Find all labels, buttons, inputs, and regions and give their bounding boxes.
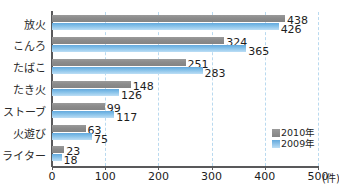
category-label: 放火 (24, 16, 46, 32)
x-axis-unit-label: (件) (322, 170, 339, 185)
chart-row: たばこ251283 (52, 57, 318, 78)
x-axis-tick-label: 400 (254, 170, 275, 183)
gridline (318, 12, 319, 166)
bar-2010年-こんろ[interactable]: 324 (52, 37, 224, 44)
bar-2009年-ストーブ[interactable]: 117 (52, 111, 114, 118)
chart-row: たき火148126 (52, 79, 318, 100)
legend-label-2009: 2009年 (281, 138, 315, 149)
x-axis-tick-label: 0 (49, 170, 56, 183)
x-axis-tick-label: 100 (95, 170, 116, 183)
x-axis-tick-label: 300 (201, 170, 222, 183)
chart-row: ストーブ99117 (52, 101, 318, 122)
bar-2010年-ストーブ[interactable]: 99 (52, 103, 105, 110)
legend-swatch-icon-2010 (272, 129, 280, 137)
bar-2009年-こんろ[interactable]: 365 (52, 45, 246, 52)
bar-2009年-たばこ[interactable]: 283 (52, 67, 203, 74)
category-label: ストーブ (3, 103, 46, 119)
category-label: たばこ (13, 59, 46, 75)
bar-2009年-たき火[interactable]: 126 (52, 89, 119, 96)
category-label: こんろ (13, 37, 46, 53)
bar-2010年-放火[interactable]: 438 (52, 15, 285, 22)
category-label: ライター (2, 147, 46, 163)
category-label: たき火 (13, 81, 46, 97)
bar-2009年-火遊び[interactable]: 75 (52, 133, 92, 140)
legend-item-2010[interactable]: 2010年 (272, 127, 315, 138)
legend-item-2009[interactable]: 2009年 (272, 138, 315, 149)
chart-row: こんろ324365 (52, 35, 318, 56)
x-axis-line (52, 166, 319, 168)
category-label: 火遊び (13, 125, 46, 141)
bar-2010年-たばこ[interactable]: 251 (52, 59, 186, 66)
bar-2009年-放火[interactable]: 426 (52, 23, 279, 30)
bar-2010年-ライター[interactable]: 23 (52, 146, 64, 153)
bar-2009年-ライター[interactable]: 18 (52, 154, 62, 161)
chart-legend: 2010年 2009年 (272, 127, 315, 149)
bar-chart: 放火438426こんろ324365たばこ251283たき火148126ストーブ9… (0, 0, 339, 191)
bar-2010年-たき火[interactable]: 148 (52, 81, 131, 88)
bar-value-label: 18 (64, 154, 78, 167)
bar-2010年-火遊び[interactable]: 63 (52, 125, 86, 132)
legend-swatch-icon-2009 (272, 140, 280, 148)
chart-row: 放火438426 (52, 13, 318, 34)
x-axis-tick-label: 200 (148, 170, 169, 183)
legend-label-2010: 2010年 (281, 127, 315, 138)
